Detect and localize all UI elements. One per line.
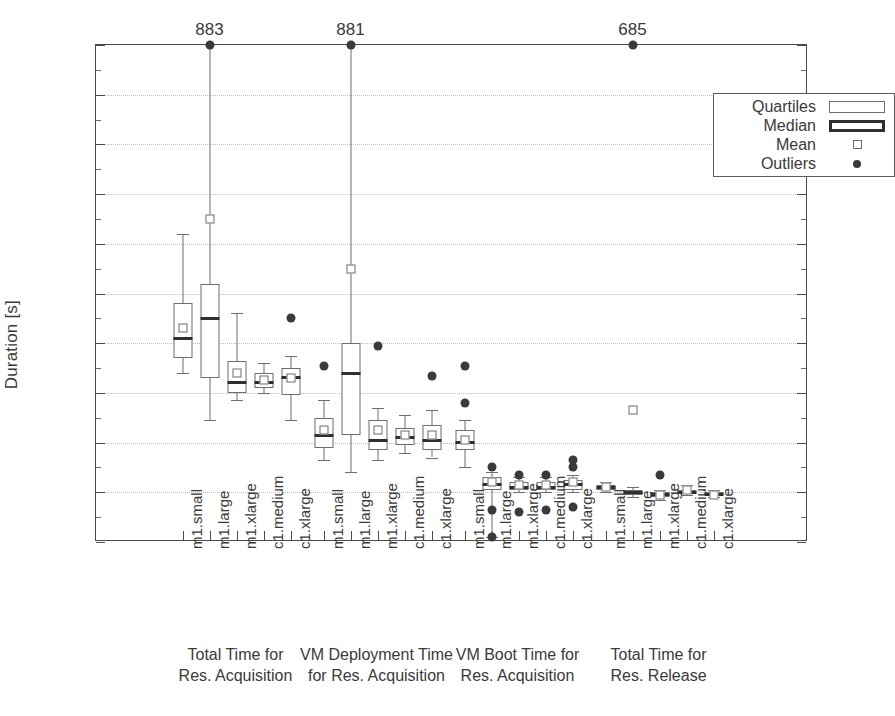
y-axis-minor-tick (96, 318, 101, 319)
box-plot-vm-deployment-time-c1.medium (391, 45, 418, 540)
box-plot-total-time-for-c1.medium (250, 45, 277, 540)
outlier-point (205, 41, 214, 50)
group-label-line1: Total Time for (610, 645, 706, 666)
outlier-point (346, 41, 355, 50)
mean-marker (628, 406, 637, 415)
median-line (173, 337, 192, 340)
whisker-cap-lower (681, 495, 693, 496)
whisker-cap-lower (318, 460, 330, 461)
y-axis-tick-right (797, 393, 806, 394)
whisker-cap-lower (627, 497, 639, 498)
y-axis-minor-tick-right (801, 70, 806, 71)
y-axis-tick-right (797, 45, 806, 46)
quartiles-swatch-icon (826, 101, 888, 113)
group-label-line2: for Res. Acquisition (300, 666, 453, 687)
box-plot-vm-boot-time-for-c1.medium (532, 45, 559, 540)
y-axis-tick (96, 393, 105, 394)
y-axis-tick (96, 542, 105, 543)
group-label-line2: Res. Release (610, 666, 706, 687)
box-plot-total-time-for-m1.xlarge (223, 45, 250, 540)
y-axis-minor-tick (96, 517, 101, 518)
mean-marker (373, 426, 382, 435)
whisker-cap-upper (318, 400, 330, 401)
y-axis-minor-tick (96, 169, 101, 170)
y-axis-minor-tick (96, 467, 101, 468)
median-line (227, 381, 246, 384)
legend-item-mean: Mean (718, 135, 888, 154)
box-plot-vm-deployment-time-c1.xlarge (418, 45, 445, 540)
whisker-cap-upper (372, 408, 384, 409)
group-label-line1: VM Deployment Time (300, 645, 453, 666)
outlier-point (460, 361, 469, 370)
y-axis-tick (96, 443, 105, 444)
box-plot-vm-boot-time-for-c1.xlarge (559, 45, 586, 540)
outlier-point (373, 341, 382, 350)
outlier-point (514, 508, 523, 517)
whisker-cap-upper (399, 415, 411, 416)
mean-marker (205, 214, 214, 223)
mean-marker (709, 490, 718, 499)
mean-marker (487, 478, 496, 487)
y-axis-minor-tick (96, 418, 101, 419)
legend-label-outliers: Outliers (761, 155, 816, 173)
y-axis-tick-right (797, 244, 806, 245)
box-plot-total-time-for-m1.large: 685 (619, 45, 646, 540)
group-label-line2: Res. Acquisition (179, 666, 293, 687)
group-label-line2: Res. Acquisition (456, 666, 580, 687)
y-axis-tick-right (797, 492, 806, 493)
box-plot-total-time-for-c1.xlarge (277, 45, 304, 540)
whisker-cap-upper (285, 356, 297, 357)
y-axis-tick-right (797, 542, 806, 543)
mean-marker (601, 483, 610, 492)
whisker-cap-upper (486, 472, 498, 473)
mean-marker (541, 480, 550, 489)
outlier-point (286, 314, 295, 323)
plot-area: 883881685 Quartiles Median Mean Outliers (95, 44, 807, 541)
legend-label-mean: Mean (776, 136, 816, 154)
box-plot-total-time-for-c1.medium (673, 45, 700, 540)
outlier-point (628, 41, 637, 50)
y-axis-minor-tick-right (801, 318, 806, 319)
y-axis-tick (96, 95, 105, 96)
y-axis-minor-tick-right (801, 418, 806, 419)
clipped-outlier-label: 883 (195, 20, 223, 40)
group-label-line1: Total Time for (179, 645, 293, 666)
mean-marker (568, 478, 577, 487)
whisker-cap-upper (567, 475, 579, 476)
whisker-cap-lower (540, 492, 552, 493)
box-plot-total-time-for-m1.small (592, 45, 619, 540)
whisker-cap-lower (426, 458, 438, 459)
mean-marker (319, 426, 328, 435)
legend-item-median: Median (718, 116, 888, 135)
y-axis-minor-tick-right (801, 269, 806, 270)
mean-marker (460, 436, 469, 445)
y-axis-minor-tick (96, 368, 101, 369)
legend-label-median: Median (764, 117, 816, 135)
outlier-point (487, 505, 496, 514)
whisker-cap-upper (426, 410, 438, 411)
y-axis-minor-tick (96, 70, 101, 71)
box-plot-vm-deployment-time-m1.xlarge (364, 45, 391, 540)
mean-marker (178, 324, 187, 333)
whisker-cap-lower (258, 393, 270, 394)
outlier-point (568, 503, 577, 512)
y-axis-minor-tick-right (801, 467, 806, 468)
mean-marker (655, 490, 664, 499)
y-axis-minor-tick-right (801, 517, 806, 518)
whisker-cap-lower (600, 492, 612, 493)
whisker-cap-lower (372, 460, 384, 461)
whisker-cap-lower (345, 472, 357, 473)
whisker-cap-lower (459, 467, 471, 468)
y-axis-tick-right (797, 343, 806, 344)
y-axis-tick (96, 492, 105, 493)
y-axis-tick (96, 294, 105, 295)
median-line (200, 317, 219, 320)
whisker-cap-lower (204, 420, 216, 421)
legend-item-quartiles: Quartiles (718, 97, 888, 116)
outlier-point (487, 463, 496, 472)
whisker-cap-lower (567, 492, 579, 493)
mean-marker (286, 373, 295, 382)
whisker-cap-lower (399, 453, 411, 454)
box-plot-total-time-for-m1.small (169, 45, 196, 540)
y-axis-minor-tick (96, 269, 101, 270)
